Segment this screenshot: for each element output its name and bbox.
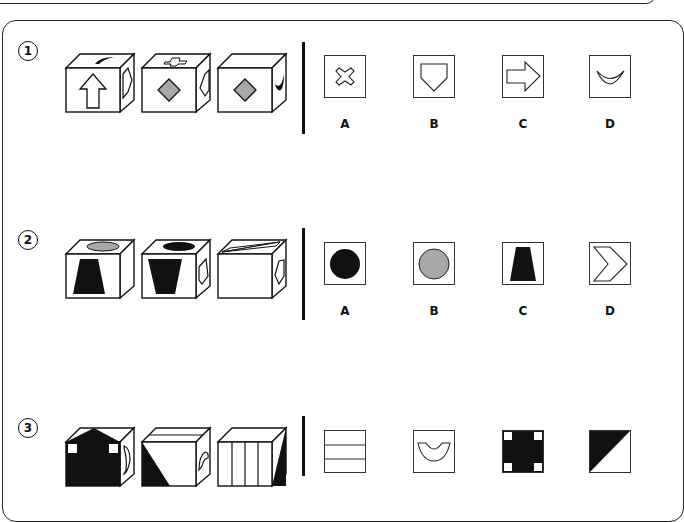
divider-q2 xyxy=(302,228,305,320)
cube-q1-1 xyxy=(64,52,136,114)
option-q3-b[interactable] xyxy=(413,430,455,473)
option-q2-a[interactable] xyxy=(324,242,366,285)
option-label-q1-d: D xyxy=(589,117,631,131)
option-q1-a[interactable] xyxy=(324,55,366,98)
previous-panel-frame xyxy=(0,0,656,4)
cube-q1-2 xyxy=(140,52,212,114)
question-number-2: 2 xyxy=(18,230,38,250)
cube-q2-1 xyxy=(64,238,136,300)
option-label-q2-c: C xyxy=(502,304,544,318)
option-label-q2-d: D xyxy=(589,304,631,318)
divider-q3 xyxy=(302,416,305,476)
cube-q2-3 xyxy=(216,238,288,300)
question-number-1: 1 xyxy=(18,41,38,61)
question-number-3: 3 xyxy=(18,418,38,438)
option-label-q2-b: B xyxy=(413,304,455,318)
option-label-q2-a: A xyxy=(324,304,366,318)
option-q1-b[interactable] xyxy=(413,55,455,98)
option-q3-c[interactable] xyxy=(502,430,544,473)
option-label-q1-b: B xyxy=(413,117,455,131)
option-q3-a[interactable] xyxy=(324,430,366,473)
cube-q3-2 xyxy=(140,426,212,488)
option-q1-d[interactable] xyxy=(589,55,631,98)
option-q2-c[interactable] xyxy=(502,242,544,285)
option-q1-c[interactable] xyxy=(502,55,544,98)
option-label-q1-c: C xyxy=(502,117,544,131)
cube-q2-2 xyxy=(140,238,212,300)
cube-q3-1 xyxy=(64,426,136,488)
cube-q3-3 xyxy=(216,426,288,488)
cube-q1-3 xyxy=(216,52,288,114)
option-q2-b[interactable] xyxy=(413,242,455,285)
divider-q1 xyxy=(302,42,305,134)
option-q3-d[interactable] xyxy=(589,430,631,473)
option-q2-d[interactable] xyxy=(589,242,631,285)
option-label-q1-a: A xyxy=(324,117,366,131)
